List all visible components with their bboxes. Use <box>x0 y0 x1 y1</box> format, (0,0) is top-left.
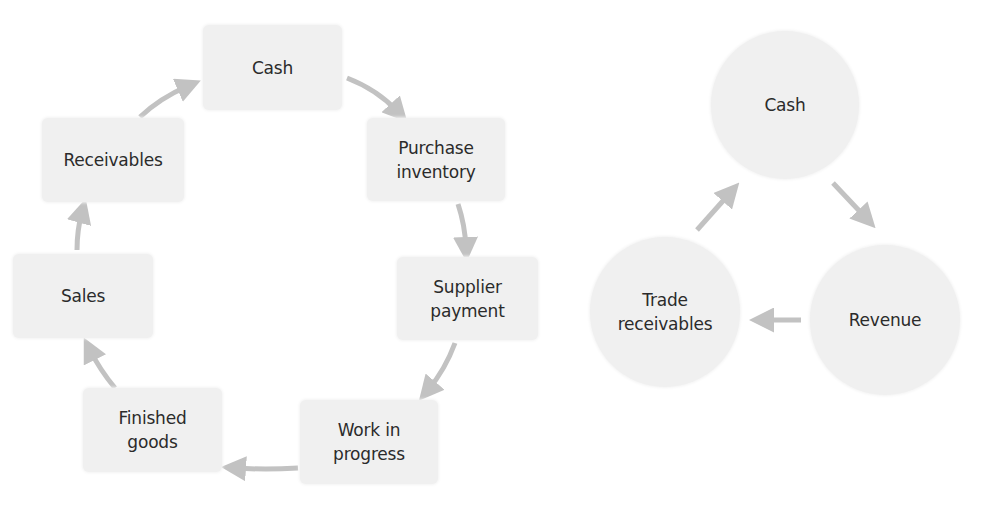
cycle-node-receivables: Receivables <box>42 118 184 202</box>
cycle-node-work-in-progress: Work in progress <box>300 400 438 484</box>
node-label: Finished goods <box>118 406 186 454</box>
cycle-arrow-cash-to-purchase-inventory <box>347 78 398 112</box>
simple-node-cash: Cash <box>711 31 859 179</box>
cycle-arrow-supplier-payment-to-work-in-progress <box>428 343 455 390</box>
cycle-arrow-purchase-inventory-to-supplier-payment <box>458 204 466 248</box>
node-label: Cash <box>252 56 293 80</box>
node-label: Cash <box>764 93 805 117</box>
simple-node-trade-receivables: Trade receivables <box>590 237 740 387</box>
simple-arrow-cash-to-revenue <box>833 183 866 218</box>
cycle-node-purchase-inventory: Purchase inventory <box>367 118 505 201</box>
cycle-node-supplier-payment: Supplier payment <box>397 257 538 340</box>
cycle-node-cash: Cash <box>203 25 342 110</box>
node-label: Receivables <box>63 148 162 172</box>
node-label: Supplier payment <box>430 275 504 323</box>
simple-node-revenue: Revenue <box>810 245 960 395</box>
cycle-node-finished-goods: Finished goods <box>83 388 222 472</box>
node-label: Revenue <box>849 308 922 332</box>
node-label: Purchase inventory <box>396 136 475 184</box>
cycle-arrow-finished-goods-to-sales <box>90 350 115 388</box>
diagram-canvas: Cash Purchase inventory Supplier payment… <box>0 0 985 508</box>
cycle-node-sales: Sales <box>13 254 153 338</box>
cycle-arrow-work-in-progress-to-finished-goods <box>235 468 298 469</box>
node-label: Sales <box>61 284 105 308</box>
node-label: Trade receivables <box>618 288 713 336</box>
cycle-arrow-receivables-to-cash <box>140 86 188 117</box>
node-label: Work in progress <box>333 418 405 466</box>
simple-arrow-trade-receivables-to-cash <box>697 193 730 230</box>
cycle-arrow-sales-to-receivables <box>77 212 82 250</box>
